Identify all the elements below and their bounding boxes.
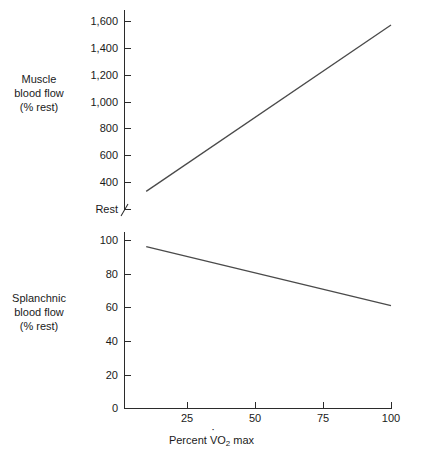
splanchnic-blood-flow-line (146, 247, 391, 306)
muscle-ytick-400 (125, 182, 131, 183)
x-axis-title: Percent VO2 max (0, 434, 423, 448)
xtick-100 (391, 402, 392, 408)
xtick-75 (323, 402, 324, 408)
muscle-y-axis-title: Muscle blood flow (% rest) (6, 72, 72, 114)
x-axis-title-prefix: Percent (169, 434, 210, 446)
splanchnic-ytick-label-100: 100 (74, 235, 118, 246)
muscle-y-axis-title-line3: (% rest) (6, 100, 72, 114)
muscle-ytick-label-1600: 1,600 (74, 16, 118, 27)
muscle-y-axis-line (124, 10, 125, 210)
muscle-ytick-label-800: 800 (74, 123, 118, 134)
muscle-ytick-600 (125, 155, 131, 156)
splanchnic-ytick-label-60: 60 (74, 302, 118, 313)
muscle-y-axis-title-line1: Muscle (6, 72, 72, 86)
x-axis-line (124, 408, 392, 409)
muscle-ytick-label-400: 400 (74, 177, 118, 188)
vdot-icon: V (210, 434, 217, 446)
xtick-label-75: 75 (303, 413, 343, 424)
splanchnic-y-axis-title: Splanchnic blood flow (% rest) (4, 291, 74, 333)
muscle-ytick-1400 (125, 48, 131, 49)
splanchnic-y-axis-title-line2: blood flow (4, 305, 74, 319)
muscle-ytick-label-rest: Rest (74, 204, 118, 215)
splanchnic-ytick-100 (125, 240, 131, 241)
muscle-ytick-label-1000: 1,000 (74, 97, 118, 108)
xtick-label-50: 50 (235, 413, 275, 424)
muscle-ytick-800 (125, 128, 131, 129)
muscle-ytick-rest (125, 209, 131, 210)
splanchnic-ytick-60 (125, 307, 131, 308)
splanchnic-y-axis-line (124, 232, 125, 409)
splanchnic-ytick-label-80: 80 (74, 269, 118, 280)
splanchnic-ytick-80 (125, 274, 131, 275)
muscle-ytick-label-1400: 1,400 (74, 43, 118, 54)
splanchnic-y-axis-title-line1: Splanchnic (4, 291, 74, 305)
muscle-blood-flow-line (146, 25, 391, 191)
splanchnic-ytick-label-40: 40 (74, 336, 118, 347)
muscle-y-axis-title-line2: blood flow (6, 86, 72, 100)
x-axis-title-suffix: max (230, 434, 254, 446)
splanchnic-y-axis-title-line3: (% rest) (4, 319, 74, 333)
x-axis-title-o: O (217, 434, 226, 446)
muscle-ytick-1200 (125, 75, 131, 76)
xtick-label-25: 25 (167, 413, 207, 424)
xtick-25 (187, 402, 188, 408)
muscle-ytick-label-1200: 1,200 (74, 70, 118, 81)
muscle-ytick-1000 (125, 102, 131, 103)
muscle-ytick-label-600: 600 (74, 150, 118, 161)
data-lines-layer (0, 0, 423, 458)
splanchnic-ytick-20 (125, 375, 131, 376)
muscle-ytick-1600 (125, 21, 131, 22)
xtick-label-100: 100 (371, 413, 411, 424)
splanchnic-ytick-label-0: 0 (74, 403, 118, 414)
splanchnic-ytick-40 (125, 341, 131, 342)
chart-figure: 1,600 1,400 1,200 1,000 800 600 400 Rest… (0, 0, 423, 458)
xtick-50 (255, 402, 256, 408)
x-axis-title-subscript: 2 (226, 439, 230, 448)
splanchnic-ytick-label-20: 20 (74, 370, 118, 381)
